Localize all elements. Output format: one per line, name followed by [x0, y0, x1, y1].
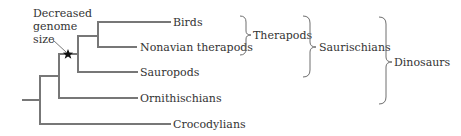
brace-dinosaurs	[379, 17, 392, 104]
taxon-ornithischians: Ornithischians	[140, 92, 222, 105]
annotation-pointer	[53, 40, 66, 52]
taxon-birds: Birds	[173, 16, 203, 29]
annotation-line-2: genome	[33, 20, 77, 33]
group-label-dinosaurs: Dinosaurs	[394, 56, 451, 69]
taxon-nonavian-therapods: Nonavian therapods	[140, 41, 253, 54]
taxon-crocodylians: Crocodylians	[173, 118, 246, 131]
group-saurischians: Saurischians	[303, 16, 391, 77]
taxa-labels: Birds Nonavian therapods Sauropods Ornit…	[140, 16, 253, 131]
group-label-therapods: Therapods	[253, 29, 312, 42]
annotation-line-3: size	[33, 33, 54, 46]
phylogenetic-tree: Decreased genome size Birds Nonavian the…	[0, 0, 461, 136]
taxon-sauropods: Sauropods	[140, 66, 200, 79]
annotation-line-1: Decreased	[33, 7, 92, 20]
group-label-saurischians: Saurischians	[319, 41, 391, 54]
group-dinosaurs: Dinosaurs	[379, 17, 451, 104]
brace-saurischians	[303, 16, 316, 77]
genome-size-annotation: Decreased genome size	[33, 7, 92, 59]
